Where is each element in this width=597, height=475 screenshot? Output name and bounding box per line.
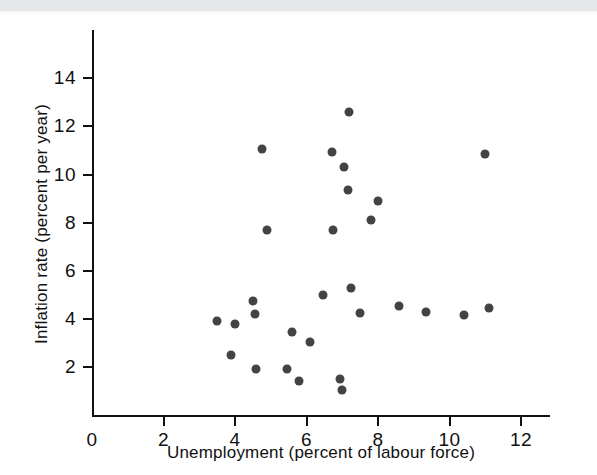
y-axis-tick <box>83 270 92 272</box>
scatter-point <box>395 301 404 310</box>
scatter-point <box>481 150 490 159</box>
scatter-point <box>356 308 365 317</box>
y-axis-tick <box>83 222 92 224</box>
x-axis-tick <box>377 417 379 426</box>
x-axis-tick <box>163 417 165 426</box>
scatter-point <box>347 283 356 292</box>
x-axis-title: Unemployment (percent of labour force) <box>92 443 550 463</box>
x-axis-line <box>92 415 550 417</box>
scatter-point <box>288 328 297 337</box>
scatter-point <box>329 225 338 234</box>
scatter-point <box>231 319 240 328</box>
scatter-point <box>213 317 222 326</box>
y-axis-tick <box>83 174 92 176</box>
scatter-point <box>327 147 336 156</box>
scatter-point <box>422 307 431 316</box>
scatter-point <box>459 311 468 320</box>
scatter-point <box>343 186 352 195</box>
scatter-point <box>282 365 291 374</box>
scatter-point <box>257 145 266 154</box>
scatter-point <box>263 225 272 234</box>
scatter-point <box>250 309 259 318</box>
y-axis-tick <box>83 318 92 320</box>
scatter-point <box>306 337 315 346</box>
scatter-point <box>484 303 493 312</box>
y-axis-tick <box>83 366 92 368</box>
scatter-point <box>227 350 236 359</box>
scatter-point <box>248 296 257 305</box>
x-axis-tick <box>520 417 522 426</box>
scatter-point <box>340 163 349 172</box>
y-axis-tick <box>83 125 92 127</box>
scatter-point <box>374 196 383 205</box>
y-axis-title: Inflation rate (percent per year) <box>32 44 52 344</box>
scatter-point <box>318 290 327 299</box>
scatter-plot-figure: 2468101214 024681012 Inflation rate (per… <box>0 0 597 475</box>
scatter-point <box>336 374 345 383</box>
scatter-point <box>366 216 375 225</box>
scatter-point <box>338 385 347 394</box>
x-axis-tick <box>234 417 236 426</box>
x-axis-tick <box>449 417 451 426</box>
scatter-point <box>295 377 304 386</box>
y-axis-tick <box>83 77 92 79</box>
y-axis-title-wrapper: Inflation rate (percent per year) <box>34 318 58 475</box>
scatter-point <box>252 365 261 374</box>
scatter-point <box>345 107 354 116</box>
plot-area <box>92 30 547 415</box>
x-axis-tick <box>306 417 308 426</box>
